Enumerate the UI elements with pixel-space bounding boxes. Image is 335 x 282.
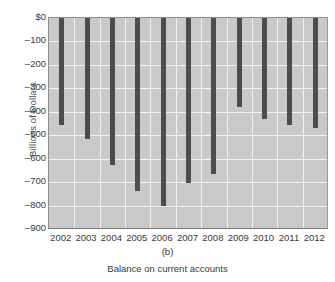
gridline-vertical	[227, 18, 228, 229]
chart-caption: Balance on current accounts	[0, 263, 335, 274]
gridline-vertical	[176, 18, 177, 229]
gridline-vertical	[100, 18, 101, 229]
gridline-vertical	[150, 18, 151, 229]
y-axis-tick-label: $0	[6, 12, 46, 22]
y-axis-tick-label: –200	[6, 59, 46, 69]
y-axis-tick-label: –800	[6, 200, 46, 210]
gridline-vertical	[125, 18, 126, 229]
bar	[85, 18, 90, 139]
bar	[59, 18, 64, 125]
x-axis-tick-labels: 2002200320042005200620072008200920102011…	[48, 232, 327, 246]
bar	[135, 18, 140, 191]
bar	[186, 18, 191, 183]
y-axis-tick-label: –300	[6, 83, 46, 93]
y-axis-tick-label: –500	[6, 129, 46, 139]
gridline-vertical	[303, 18, 304, 229]
bar	[110, 18, 115, 165]
plot-area	[48, 17, 328, 229]
gridline-vertical	[201, 18, 202, 229]
gridline-horizontal	[49, 206, 328, 207]
y-axis-tick-label: –100	[6, 36, 46, 46]
y-axis-tick-label: –400	[6, 106, 46, 116]
y-axis-tick-label: –600	[6, 153, 46, 163]
y-axis-tick-label: –700	[6, 176, 46, 186]
bar	[161, 18, 166, 206]
panel-letter: (b)	[0, 246, 335, 257]
bar	[262, 18, 267, 119]
bar	[287, 18, 292, 125]
gridline-vertical	[277, 18, 278, 229]
chart-figure: Billions of Dollars $0–100–200–300–400–5…	[0, 0, 335, 282]
y-axis-tick-labels: $0–100–200–300–400–500–600–700–800–900	[6, 17, 46, 228]
bar	[211, 18, 216, 174]
gridline-vertical	[74, 18, 75, 229]
x-axis-tick-label: 2012	[294, 232, 334, 243]
bar	[237, 18, 242, 107]
bar	[313, 18, 318, 128]
gridline-vertical	[252, 18, 253, 229]
